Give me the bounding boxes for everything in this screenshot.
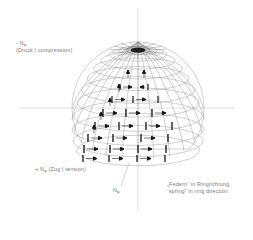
label-tension-subscript: φ bbox=[44, 168, 47, 173]
label-compression-subscript: φ bbox=[24, 42, 27, 47]
spring-arrow-head bbox=[98, 136, 102, 139]
pole-cap bbox=[131, 48, 145, 53]
spring-arrow-head bbox=[122, 98, 126, 101]
label-spring-annotation: „Federn“ in Ringrichtung “spring” in rin… bbox=[167, 181, 229, 195]
spring-row bbox=[95, 122, 172, 130]
label-spring-line2: “spring” in ring direction bbox=[167, 188, 229, 195]
label-tension: + Nφ (Zug | tension) bbox=[35, 166, 86, 173]
label-nphi-subscript: φ bbox=[117, 189, 120, 194]
label-tension-text: (Zug | tension) bbox=[47, 166, 86, 172]
spring-arrow-head bbox=[123, 136, 127, 139]
meridian-lines bbox=[72, 42, 204, 160]
spring-arrow-head bbox=[113, 111, 117, 114]
spring-arrow-head bbox=[151, 136, 155, 139]
meridian-arrow-head bbox=[108, 98, 111, 101]
spring-arrow-head bbox=[136, 111, 140, 114]
spring-arrow-head bbox=[93, 157, 97, 160]
label-meridian-force: Nφ bbox=[113, 187, 120, 194]
spring-arrow-head bbox=[129, 124, 133, 127]
label-spring-line1: „Federn“ in Ringrichtung bbox=[167, 181, 229, 188]
spring-arrow-head bbox=[119, 157, 123, 160]
spring-arrow-head bbox=[147, 157, 151, 160]
spring-arrow-symbols bbox=[83, 70, 172, 162]
spring-row bbox=[83, 155, 165, 162]
meridian-arrow-head bbox=[99, 112, 102, 115]
label-compression: - Nφ (Druck | compression) bbox=[16, 40, 72, 54]
spring-arrow-head bbox=[162, 111, 166, 114]
meridian-arrow-head bbox=[126, 70, 129, 73]
spring-row bbox=[88, 134, 168, 142]
spring-arrow-head bbox=[148, 147, 152, 150]
label-tension-symbol: + N bbox=[35, 166, 44, 172]
label-compression-line2: (Druck | compression) bbox=[16, 47, 72, 54]
spring-arrow-head bbox=[120, 147, 124, 150]
spring-arrow-head bbox=[156, 124, 160, 127]
spring-arrow-head bbox=[94, 147, 98, 150]
meridian-arrow-head bbox=[142, 70, 145, 73]
label-compression-line1: - Nφ bbox=[16, 40, 27, 46]
nphi-leader-line bbox=[121, 163, 129, 186]
spring-row bbox=[120, 84, 148, 90]
spring-row bbox=[112, 96, 158, 103]
spring-arrow-head bbox=[105, 124, 109, 127]
